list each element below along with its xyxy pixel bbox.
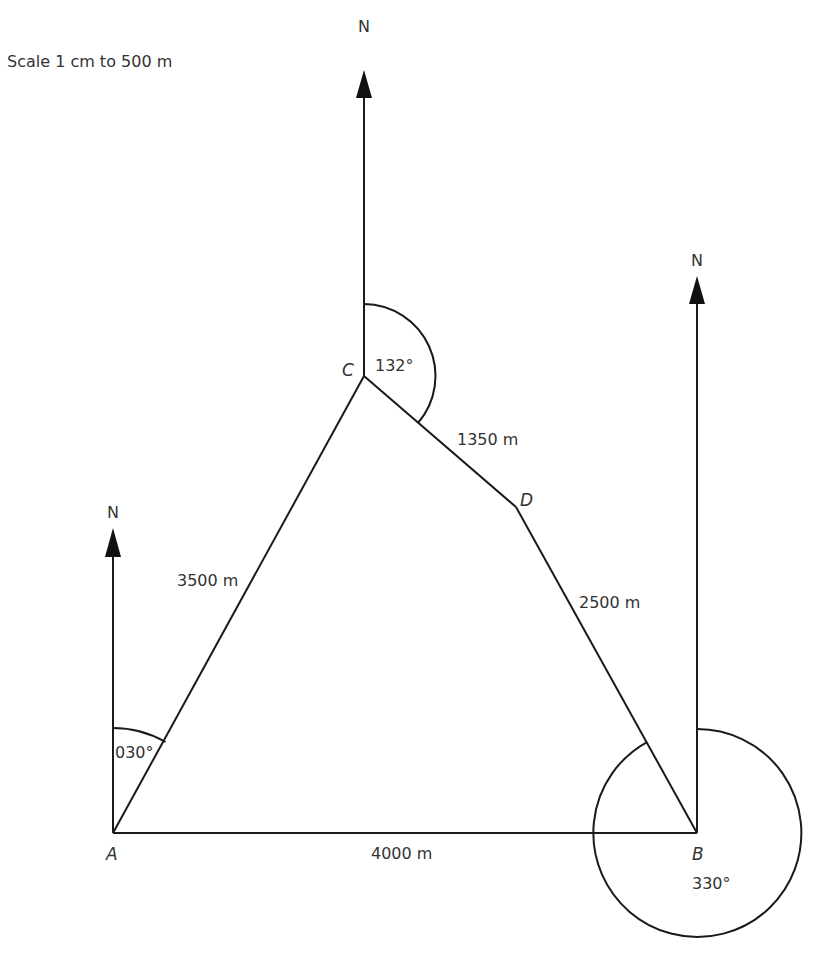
- point-d-label: D: [520, 490, 533, 510]
- angle-arc-a: [113, 728, 166, 742]
- arrowhead-icon: [689, 276, 705, 304]
- north-label-b: N: [691, 251, 703, 270]
- north-arrow-b: N: [689, 251, 705, 833]
- bearing-diagram: Scale 1 cm to 500 m N N N A B C D 3500 m…: [0, 0, 831, 971]
- north-label-c: N: [358, 17, 370, 36]
- north-label-a: N: [107, 503, 119, 522]
- point-a-label: A: [105, 844, 118, 864]
- point-c-label: C: [342, 360, 354, 380]
- distance-ac: 3500 m: [177, 571, 238, 590]
- point-b-label: B: [692, 844, 704, 864]
- north-arrow-c: N: [356, 17, 372, 376]
- distance-ab: 4000 m: [371, 844, 432, 863]
- bearing-b: 330°: [692, 874, 731, 893]
- bearing-c: 132°: [375, 356, 414, 375]
- distance-cd: 1350 m: [457, 430, 518, 449]
- distance-db: 2500 m: [579, 593, 640, 612]
- segment-ac: [113, 376, 364, 833]
- north-arrow-a: N: [105, 503, 121, 833]
- arrowhead-icon: [105, 528, 121, 557]
- bearing-a: 030°: [115, 743, 154, 762]
- arrowhead-icon: [356, 70, 372, 98]
- scale-label: Scale 1 cm to 500 m: [7, 52, 172, 71]
